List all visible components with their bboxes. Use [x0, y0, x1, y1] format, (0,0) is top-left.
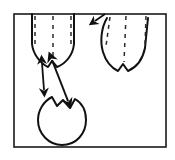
- paper-background: [0, 0, 175, 160]
- figure-container: Tooth roots with circular lesion and mea…: [0, 0, 175, 160]
- diagram-canvas: [0, 0, 175, 160]
